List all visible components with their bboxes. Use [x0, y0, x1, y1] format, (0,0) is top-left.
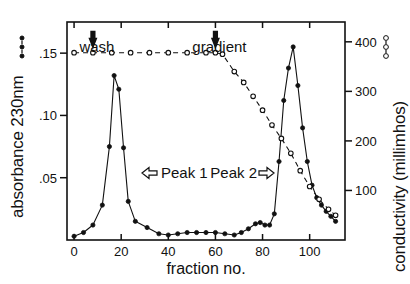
- wash-text: wash: [78, 38, 114, 55]
- gradient-text: gradient: [192, 38, 247, 55]
- data-point: [253, 222, 257, 226]
- data-point: [107, 144, 111, 148]
- data-point: [145, 225, 149, 229]
- x-axis-title: fraction no.: [166, 260, 245, 277]
- data-point: [326, 207, 331, 212]
- y-tick-label-left: .10: [39, 108, 57, 123]
- left-axis-marker-icon: [20, 36, 24, 40]
- y-tick-label-right: 100: [355, 183, 377, 198]
- data-point: [185, 50, 190, 55]
- data-point: [232, 233, 236, 237]
- x-tick-label: 0: [70, 244, 77, 259]
- data-point: [81, 230, 85, 234]
- y-tick-label-left: .15: [39, 46, 57, 61]
- data-point: [333, 213, 338, 218]
- data-point: [270, 123, 275, 128]
- data-point: [279, 136, 284, 141]
- right-axis-title: conductivity (millimhos): [390, 101, 410, 272]
- data-point: [260, 108, 265, 113]
- data-point: [307, 184, 312, 189]
- data-point: [286, 66, 290, 70]
- data-point: [223, 232, 227, 236]
- data-point: [333, 219, 337, 223]
- right-axis-marker-icon: [384, 54, 389, 59]
- data-point: [272, 212, 276, 216]
- data-point: [147, 50, 152, 55]
- x-tick-label: 100: [299, 244, 321, 259]
- data-point: [277, 159, 281, 163]
- left-axis-title: absorbance 230nm: [8, 76, 28, 218]
- data-point: [317, 197, 322, 202]
- data-point: [117, 87, 121, 91]
- data-point: [72, 50, 77, 55]
- right-axis-marker-icon: [384, 45, 389, 50]
- y-tick-label-right: 300: [355, 84, 377, 99]
- y-tick-label-left: .05: [39, 171, 57, 186]
- data-point: [185, 230, 189, 234]
- x-tick-label: 60: [208, 244, 222, 259]
- data-point: [251, 94, 256, 99]
- data-point: [246, 227, 250, 231]
- data-point: [241, 80, 246, 85]
- x-tick-label: 80: [255, 244, 269, 259]
- peak1-text: Peak 1: [161, 164, 208, 181]
- data-point: [121, 146, 125, 150]
- y-tick-label-right: 200: [355, 134, 377, 149]
- data-point: [289, 151, 294, 156]
- x-tick-label: 40: [161, 244, 175, 259]
- data-point: [305, 159, 309, 163]
- data-point: [213, 230, 217, 234]
- peak2-text: Peak 2: [210, 164, 257, 181]
- right-axis-marker-icon: [384, 36, 389, 41]
- data-point: [100, 203, 104, 207]
- y-tick-label-right: 400: [355, 35, 377, 50]
- data-point: [194, 230, 198, 234]
- data-point: [166, 233, 170, 237]
- data-point: [126, 199, 130, 203]
- data-point: [204, 230, 208, 234]
- data-point: [296, 83, 300, 87]
- data-point: [239, 230, 243, 234]
- data-point: [263, 223, 267, 227]
- data-point: [300, 126, 304, 130]
- left-axis-marker-icon: [20, 45, 24, 49]
- left-axis-marker-icon: [20, 54, 24, 58]
- data-point: [282, 98, 286, 102]
- data-point: [72, 234, 76, 238]
- data-point: [176, 232, 180, 236]
- data-point: [258, 220, 262, 224]
- data-point: [128, 50, 133, 55]
- data-point: [133, 219, 137, 223]
- data-point: [298, 168, 303, 173]
- data-point: [91, 223, 95, 227]
- data-point: [157, 232, 161, 236]
- data-point: [112, 73, 116, 77]
- data-point: [291, 45, 295, 49]
- data-point: [329, 214, 333, 218]
- data-point: [268, 223, 272, 227]
- data-point: [232, 69, 237, 74]
- data-point: [166, 50, 171, 55]
- x-tick-label: 20: [114, 244, 128, 259]
